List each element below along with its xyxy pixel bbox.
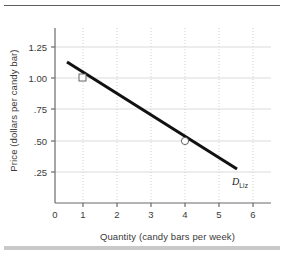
horizontal-gridlines	[55, 47, 271, 172]
x-axis-title: Quantity (candy bars per week)	[60, 231, 275, 242]
x-tick-label-6: 6	[250, 209, 255, 220]
figure-container: 1.25 1.00 .75 .50 .25 0 1 2 3 4 5 6 DLiz…	[0, 0, 284, 255]
data-point-marker-2	[181, 137, 188, 144]
x-tick-label-4: 4	[182, 209, 187, 220]
x-tick-label-0: 0	[52, 209, 57, 220]
x-tick-label-1: 1	[80, 209, 85, 220]
x-tick-label-5: 5	[216, 209, 221, 220]
x-tick-label-3: 3	[148, 209, 153, 220]
vertical-gridlines	[83, 28, 253, 203]
demand-curve-label-subscript: Liz	[239, 182, 248, 189]
x-tick-label-2: 2	[114, 209, 119, 220]
data-point-marker-1	[79, 74, 86, 81]
y-axis-title: Price (dollars per candy bar)	[8, 31, 19, 191]
chart-plot-area	[0, 0, 284, 255]
x-tick-marks	[83, 203, 253, 207]
bottom-divider-band	[4, 246, 280, 250]
demand-curve-label: DLiz	[232, 176, 248, 189]
